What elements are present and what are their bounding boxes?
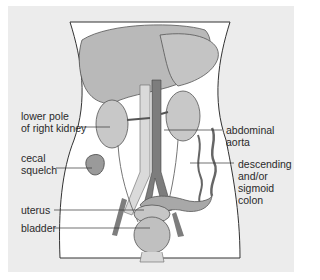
bladder — [134, 217, 170, 253]
label-descending-sigmoid-colon: descending and/or sigmoid colon — [238, 158, 292, 206]
label-uterus: uterus — [21, 204, 50, 216]
left-kidney — [166, 91, 200, 141]
label-lower-pole-right-kidney: lower pole of right kidney — [21, 110, 86, 134]
label-bladder: bladder — [21, 222, 56, 234]
label-abdominal-aorta: abdominal aorta — [226, 124, 274, 148]
right-kidney — [96, 100, 128, 148]
label-cecal-squelch: cecal squelch — [21, 152, 57, 176]
